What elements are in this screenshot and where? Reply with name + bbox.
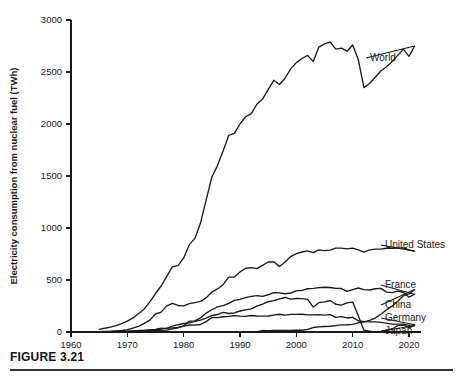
y-axis-title-text: Electricity consumption from nuclear fue… [8,68,19,285]
nuclear-electricity-line-chart: 050010001500200025003000 196019701980199… [0,0,463,348]
figure-caption-block: FIGURE 3.21 [0,348,463,377]
y-tick-label: 2000 [41,118,62,129]
x-tick-label: 1960 [60,339,81,348]
x-axis: 1960197019801990200020102020 [60,332,421,348]
series-label-united-states: United States [385,239,445,250]
series-label-china: China [385,299,412,310]
x-tick-label: 2020 [398,339,419,348]
series-annotations: WorldUnited StatesFranceChinaGermanyJapa… [366,46,445,336]
series-label-france: France [385,279,417,290]
y-tick-label: 1500 [41,170,62,181]
figure-caption-text: FIGURE 3.21 [10,350,84,364]
series-line-germany [99,314,414,332]
x-tick-label: 1980 [173,339,194,348]
chart-plot-area: 050010001500200025003000 196019701980199… [0,0,463,348]
y-tick-label: 0 [57,326,62,337]
x-tick-label: 1990 [229,339,250,348]
y-axis: 050010001500200025003000 [41,14,71,337]
x-tick-label: 2010 [342,339,363,348]
series-label-world: World [370,52,396,63]
y-tick-label: 2500 [41,66,62,77]
series-label-germany: Germany [385,312,426,323]
y-tick-label: 1000 [41,222,62,233]
series-line-japan [99,297,414,332]
x-tick-label: 1970 [117,339,138,348]
series-line-world [99,42,414,329]
figure-container: 050010001500200025003000 196019701980199… [0,0,463,377]
y-tick-label: 500 [46,274,62,285]
x-tick-label: 2000 [286,339,307,348]
y-tick-label: 3000 [41,14,62,25]
series-lines [99,42,414,332]
series-label-japan: Japan [385,325,412,336]
caption-divider [10,369,453,371]
series-line-france [99,287,414,332]
y-axis-title: Electricity consumption from nuclear fue… [8,68,19,285]
